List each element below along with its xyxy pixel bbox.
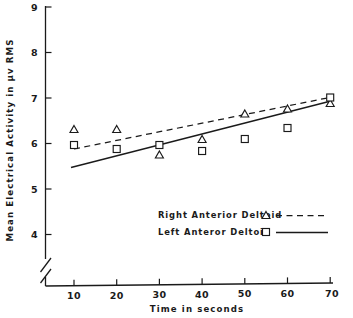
data-point-left-30 [156, 142, 163, 149]
data-point-left-40 [199, 148, 206, 155]
x-tick-group: 10 20 30 40 50 60 70 [67, 277, 339, 301]
data-point-right-40 [198, 136, 206, 143]
x-axis-title: Time in seconds [150, 304, 244, 314]
data-point-left-10 [71, 142, 78, 149]
data-point-left-60 [284, 125, 291, 132]
x-axis-line [46, 283, 334, 286]
y-tick-label-4: 4 [31, 229, 38, 240]
x-tick-label-60: 60 [280, 288, 294, 299]
x-tick-label-50: 50 [238, 288, 252, 299]
x-tick-label-10: 10 [67, 290, 81, 301]
chart-legend: Right Anterior Deltoid Left Anteror Delt… [158, 210, 328, 237]
y-axis-title: Mean Electrical Activity in µv RMS [5, 39, 15, 242]
data-point-left-50 [241, 136, 248, 143]
y-tick-group: 9 8 7 6 5 4 [31, 2, 52, 241]
data-point-right-50 [241, 110, 249, 117]
legend-marker-square-icon [263, 229, 270, 236]
y-tick-label-7: 7 [31, 93, 38, 104]
y-tick-label-9: 9 [31, 2, 38, 13]
legend-label-left-anteror-deltoid: Left Anteror Deltoid [158, 227, 271, 237]
x-tick-label-40: 40 [195, 289, 209, 300]
x-tick-label-70: 70 [325, 288, 339, 299]
y-tick-label-8: 8 [31, 47, 38, 58]
y-tick-label-6: 6 [31, 138, 38, 149]
chart-figure: 9 8 7 6 5 4 10 20 30 40 50 60 [0, 0, 353, 318]
data-point-left-20 [113, 146, 120, 153]
data-point-right-30 [155, 151, 163, 158]
chart-canvas: 9 8 7 6 5 4 10 20 30 40 50 60 [0, 0, 353, 318]
data-point-left-70 [327, 94, 334, 101]
x-tick-label-30: 30 [152, 289, 166, 300]
series-left-anteror-deltoid-markers [71, 94, 334, 155]
trendline-left-anteror-deltoid [71, 101, 331, 168]
y-axis-break-upper [41, 258, 52, 272]
data-point-right-10 [70, 126, 78, 133]
x-tick-label-20: 20 [110, 290, 124, 301]
y-tick-label-5: 5 [31, 184, 38, 195]
data-point-right-20 [113, 126, 121, 133]
